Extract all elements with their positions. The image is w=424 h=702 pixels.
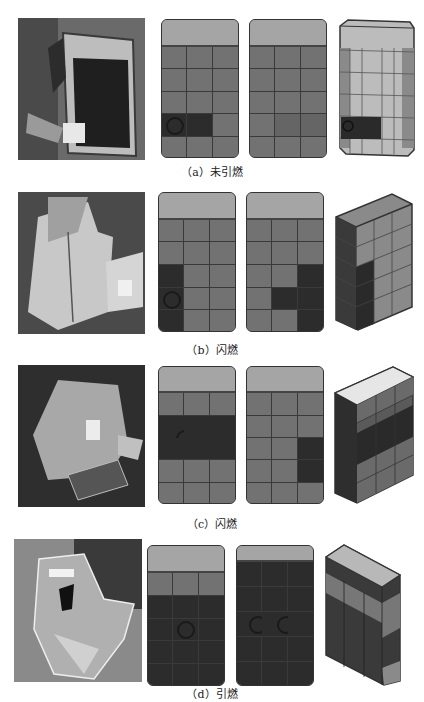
face-grid	[162, 47, 238, 158]
face-cap	[159, 367, 235, 393]
panel-a: （a）未引燃	[0, 0, 424, 180]
face-grid	[159, 393, 235, 504]
face-c-front	[158, 366, 236, 504]
burn-ring-icon	[177, 621, 195, 639]
face-cap	[237, 546, 313, 562]
box-3d-d	[324, 543, 404, 691]
face-a-back	[249, 19, 327, 158]
face-grid	[250, 47, 326, 158]
face-d-front	[147, 545, 225, 686]
photo-b-flashover-package	[18, 192, 145, 334]
caption-a: （a）未引燃	[0, 163, 424, 179]
face-cap	[247, 367, 323, 393]
box-3d-b	[334, 192, 414, 336]
face-grid	[247, 393, 323, 504]
photo-a-unignited-package	[18, 18, 145, 160]
caption-d: （d）引燃	[0, 685, 424, 701]
face-grid	[148, 573, 224, 686]
face-b-back	[246, 192, 324, 332]
face-cap	[247, 193, 323, 220]
photo-c-flashover-package	[18, 365, 145, 507]
panel-b: （b）闪燃	[0, 180, 424, 355]
burn-ring-icon	[163, 291, 181, 309]
caption-c: （c）闪燃	[0, 515, 424, 531]
face-cap	[159, 193, 235, 220]
burn-ring-icon	[166, 117, 184, 135]
face-grid	[237, 562, 313, 686]
box-3d-a	[338, 18, 418, 164]
face-grid	[247, 220, 323, 332]
box-3d-c	[333, 365, 415, 509]
face-grid	[159, 220, 235, 332]
photo-d-ignited-package	[14, 539, 142, 682]
face-d-back	[236, 545, 314, 686]
face-b-front	[158, 192, 236, 332]
face-cap	[250, 20, 326, 47]
panel-c: （c）闪燃	[0, 355, 424, 530]
panel-d: （d）引燃	[0, 530, 424, 702]
face-cap	[162, 20, 238, 47]
face-a-front	[161, 19, 239, 158]
face-cap	[148, 546, 224, 573]
face-c-back	[246, 366, 324, 504]
